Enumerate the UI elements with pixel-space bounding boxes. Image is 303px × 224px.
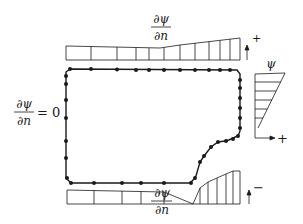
svg-text:∂n: ∂n [155,203,169,217]
boundary-nodes [64,67,242,185]
svg-text:∂ψ: ∂ψ [153,12,169,26]
left-boundary-label: ∂ψ ∂n = 0 [14,97,60,128]
svg-text:∂n: ∂n [154,29,168,43]
boundary-contour [64,67,242,185]
diagram-canvas: ∂ψ ∂n + [0,0,303,224]
right-psi-distribution [255,73,285,140]
top-sign: + [252,32,261,45]
svg-text:∂n: ∂n [17,114,31,128]
right-psi-label: ψ [266,57,276,71]
svg-text:∂ψ: ∂ψ [16,97,32,111]
right-sign: + [277,131,288,146]
bottom-derivative-label: ∂ψ ∂n [151,186,172,217]
bottom-sign: − [253,180,264,195]
svg-text:= 0: = 0 [37,105,60,120]
top-derivative-label: ∂ψ ∂n [151,12,171,43]
svg-text:∂ψ: ∂ψ [154,186,170,200]
